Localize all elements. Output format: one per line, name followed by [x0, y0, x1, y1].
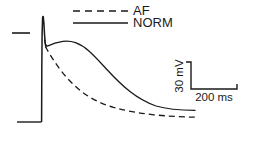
- legend-label-norm: NORM: [133, 15, 173, 30]
- upstroke-phase0: [42, 16, 46, 122]
- legend-entry-norm: NORM: [73, 15, 173, 30]
- action-potential-figure: AF NORM 30 mV 200 ms: [0, 0, 254, 141]
- waveform-plot: AF NORM 30 mV 200 ms: [0, 0, 254, 141]
- scale-bar-label-time: 200 ms: [195, 91, 233, 103]
- legend: AF NORM: [73, 3, 173, 30]
- scale-bar: 30 mV 200 ms: [173, 59, 237, 103]
- scale-bar-label-voltage: 30 mV: [173, 59, 185, 93]
- scale-bar-lines: [186, 62, 237, 89]
